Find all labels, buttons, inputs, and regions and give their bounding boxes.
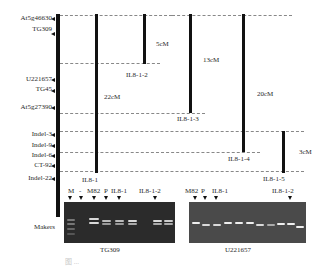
lane-arrow-icon: [92, 196, 96, 200]
marker-label: Indel-22: [2, 174, 52, 182]
lane-arrow-icon: [203, 196, 207, 200]
marker-label: Indel-6: [2, 151, 52, 159]
line-label-il8-1-3: IL8-1-3: [177, 115, 199, 123]
distance-label-il8-1-4: 20cM: [257, 90, 273, 98]
gel-image-tg309: [64, 202, 175, 243]
lane-label: P: [104, 187, 108, 195]
makers-label: Makers: [34, 223, 55, 231]
lane-arrow-icon: [193, 196, 197, 200]
marker-label: At5g27390: [2, 103, 52, 111]
distance-label-il8-1-5: 3cM: [299, 148, 312, 156]
lane-arrow-icon: [214, 196, 218, 200]
lane-label: M: [68, 187, 74, 195]
lane-label: IL8-1-2: [139, 187, 161, 195]
gel-image-u221657: [189, 202, 306, 243]
lane-label: IL8-1-2: [272, 187, 294, 195]
marker-arrow-icon: [51, 89, 55, 93]
marker-arrow-icon: [51, 177, 55, 181]
guide-line: [60, 113, 205, 114]
line-label-il8-1: IL8-1: [82, 176, 98, 184]
guide-line: [60, 15, 172, 16]
line-label-il8-1-4: IL8-1-4: [228, 155, 250, 163]
introgression-bar-il8-1-5: [282, 131, 285, 173]
marker-label: Indel-9: [2, 141, 52, 149]
marker-label: CT-92: [2, 161, 52, 169]
marker-arrow-icon: [51, 154, 55, 158]
marker-label: At5g46630: [2, 14, 52, 22]
figure-caption: 图 ...: [65, 256, 79, 266]
lane-arrow-icon: [68, 196, 72, 200]
marker-arrow-icon: [51, 32, 55, 36]
lane-label: IL8-1: [111, 187, 127, 195]
distance-label-il8-1-3: 13cM: [203, 56, 219, 64]
lane-label: M82: [87, 187, 100, 195]
distance-label-il8-1: 22cM: [104, 93, 120, 101]
lane-arrow-icon: [117, 196, 121, 200]
marker-arrow-icon: [51, 164, 55, 168]
introgression-bar-il8-1: [95, 14, 98, 173]
marker-arrow-icon: [51, 144, 55, 148]
introgression-bar-il8-1-3: [189, 14, 192, 113]
gel-caption-tg309: TG309: [100, 246, 120, 254]
marker-arrow-icon: [51, 106, 55, 110]
line-label-il8-1-2: IL8-1-2: [126, 71, 148, 79]
marker-label: Indel-3: [2, 130, 52, 138]
gel-caption-u221657: U221657: [225, 246, 251, 254]
marker-arrow-icon: [51, 133, 55, 137]
line-label-il8-1-5: IL8-1-5: [263, 175, 285, 183]
marker-arrow-icon: [51, 17, 55, 21]
introgression-bar-il8-1-4: [242, 14, 245, 152]
chromosome-bar: [56, 14, 60, 217]
distance-label-il8-1-2: 5cM: [156, 40, 169, 48]
lane-arrow-icon: [153, 196, 157, 200]
lane-label: IL8-1: [212, 187, 228, 195]
marker-label: U221657: [2, 75, 52, 83]
lane-arrow-icon: [104, 196, 108, 200]
lane-label: M82: [185, 187, 198, 195]
guide-line: [60, 152, 260, 153]
lane-label: P: [201, 187, 205, 195]
introgression-bar-il8-1-2: [143, 14, 146, 64]
lane-arrow-icon: [288, 196, 292, 200]
marker-label: TG309: [2, 25, 52, 33]
lane-label: -: [79, 187, 81, 195]
marker-label: TG45: [2, 85, 52, 93]
marker-arrow-icon: [51, 78, 55, 82]
lane-arrow-icon: [79, 196, 83, 200]
